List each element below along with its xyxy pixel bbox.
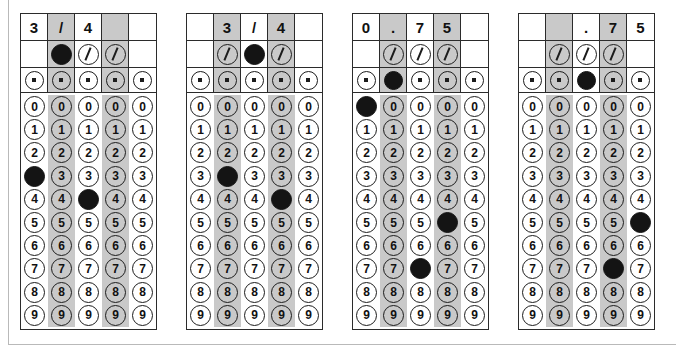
decimal-bubble[interactable]	[133, 71, 152, 90]
digit-cell[interactable]: 7	[573, 257, 600, 280]
digit-bubble-filled[interactable]: 0	[356, 96, 377, 117]
slash-cell[interactable]	[600, 41, 627, 67]
digit-bubble[interactable]: 1	[630, 119, 651, 140]
digit-cell[interactable]: 2	[600, 141, 627, 164]
digit-bubble[interactable]: 9	[298, 305, 319, 326]
digit-cell[interactable]: 9	[434, 304, 461, 327]
digit-cell[interactable]: 5	[268, 211, 295, 234]
digit-bubble[interactable]: 5	[383, 212, 404, 233]
digit-cell[interactable]: 6	[627, 234, 654, 257]
digit-cell[interactable]: 8	[434, 281, 461, 304]
digit-bubble[interactable]: 5	[464, 212, 485, 233]
digit-bubble[interactable]: 8	[464, 282, 485, 303]
digit-bubble[interactable]: 1	[356, 119, 377, 140]
digit-cell[interactable]: 3	[600, 165, 627, 188]
digit-bubble[interactable]: 1	[522, 119, 543, 140]
digit-cell[interactable]: 3	[461, 165, 488, 188]
digit-bubble[interactable]: 4	[522, 189, 543, 210]
digit-bubble[interactable]: 9	[410, 305, 431, 326]
digit-bubble[interactable]: 6	[78, 235, 99, 256]
decimal-bubble[interactable]	[272, 71, 291, 90]
answer-cell[interactable]: 7	[600, 14, 627, 40]
digit-cell[interactable]: 2	[407, 141, 434, 164]
decimal-bubble[interactable]	[438, 71, 457, 90]
digit-cell[interactable]: 0	[407, 95, 434, 118]
answer-cell[interactable]	[461, 14, 488, 40]
digit-cell[interactable]: 2	[380, 141, 407, 164]
digit-cell[interactable]: 6	[21, 234, 48, 257]
digit-cell[interactable]: 6	[241, 234, 268, 257]
decimal-cell[interactable]	[519, 68, 546, 92]
digit-cell[interactable]: 8	[48, 281, 75, 304]
digit-cell[interactable]: 2	[214, 141, 241, 164]
digit-cell[interactable]: 5	[241, 211, 268, 234]
digit-cell[interactable]: 0	[600, 95, 627, 118]
digit-bubble-filled[interactable]: 4	[271, 189, 292, 210]
digit-bubble[interactable]: 5	[190, 212, 211, 233]
digit-bubble[interactable]: 8	[51, 282, 72, 303]
digit-bubble[interactable]: 5	[549, 212, 570, 233]
digit-cell[interactable]: 9	[600, 304, 627, 327]
slash-bubble[interactable]	[78, 44, 99, 65]
digit-bubble[interactable]: 3	[298, 166, 319, 187]
slash-bubble[interactable]	[437, 44, 458, 65]
digit-cell[interactable]: 9	[21, 304, 48, 327]
digit-cell[interactable]: 6	[380, 234, 407, 257]
digit-bubble[interactable]: 1	[24, 119, 45, 140]
digit-cell[interactable]: 1	[75, 118, 102, 141]
answer-cell[interactable]: 3	[21, 14, 48, 40]
digit-cell[interactable]: 8	[380, 281, 407, 304]
answer-entry-row[interactable]: 3/4	[20, 13, 157, 41]
digit-cell[interactable]: 0	[573, 95, 600, 118]
answer-entry-row[interactable]: 3/4	[186, 13, 323, 41]
digit-cell[interactable]: 3	[102, 165, 129, 188]
digit-cell[interactable]: 4	[407, 188, 434, 211]
digit-bubble[interactable]: 9	[437, 305, 458, 326]
digit-bubble[interactable]: 7	[51, 258, 72, 279]
digit-bubble[interactable]: 6	[132, 235, 153, 256]
digit-cell[interactable]: 8	[187, 281, 214, 304]
digit-cell[interactable]: 7	[48, 257, 75, 280]
decimal-bubble-filled[interactable]	[384, 71, 403, 90]
digit-bubble[interactable]: 7	[78, 258, 99, 279]
digit-bubble[interactable]: 0	[383, 96, 404, 117]
digit-bubble[interactable]: 4	[356, 189, 377, 210]
digit-bubble[interactable]: 3	[464, 166, 485, 187]
digit-bubble[interactable]: 6	[603, 235, 624, 256]
digit-bubble[interactable]: 8	[298, 282, 319, 303]
digit-bubble[interactable]: 7	[105, 258, 126, 279]
digit-cell[interactable]: 3	[434, 165, 461, 188]
digit-cell[interactable]: 7	[546, 257, 573, 280]
digit-cell[interactable]: 8	[102, 281, 129, 304]
digit-bubble[interactable]: 8	[410, 282, 431, 303]
digit-bubble[interactable]: 6	[217, 235, 238, 256]
digit-cell[interactable]: 7	[380, 257, 407, 280]
digit-cell[interactable]: 8	[407, 281, 434, 304]
digit-cell[interactable]: 1	[129, 118, 156, 141]
digit-cell[interactable]: 7	[187, 257, 214, 280]
digit-bubble[interactable]: 0	[271, 96, 292, 117]
answer-cell[interactable]	[129, 14, 156, 40]
digit-cell[interactable]: 0	[21, 95, 48, 118]
digit-bubble[interactable]: 0	[576, 96, 597, 117]
decimal-cell[interactable]	[546, 68, 573, 92]
digit-cell[interactable]: 3	[48, 165, 75, 188]
digit-bubble[interactable]: 6	[437, 235, 458, 256]
slash-cell[interactable]	[75, 41, 102, 67]
slash-bubble[interactable]	[217, 44, 238, 65]
digit-cell[interactable]: 5	[380, 211, 407, 234]
digit-bubble[interactable]: 7	[217, 258, 238, 279]
digit-bubble[interactable]: 2	[105, 142, 126, 163]
digit-bubble-filled[interactable]: 3	[24, 166, 45, 187]
digit-bubble[interactable]: 3	[356, 166, 377, 187]
digit-cell[interactable]: 6	[214, 234, 241, 257]
digit-cell[interactable]: 2	[48, 141, 75, 164]
digit-bubble[interactable]: 2	[298, 142, 319, 163]
digit-cell[interactable]: 4	[21, 188, 48, 211]
digit-cell[interactable]: 4	[519, 188, 546, 211]
digit-bubble[interactable]: 8	[105, 282, 126, 303]
slash-cell[interactable]	[102, 41, 129, 67]
decimal-bubble[interactable]	[411, 71, 430, 90]
digit-cell[interactable]: 3	[21, 165, 48, 188]
digit-cell[interactable]: 3	[546, 165, 573, 188]
